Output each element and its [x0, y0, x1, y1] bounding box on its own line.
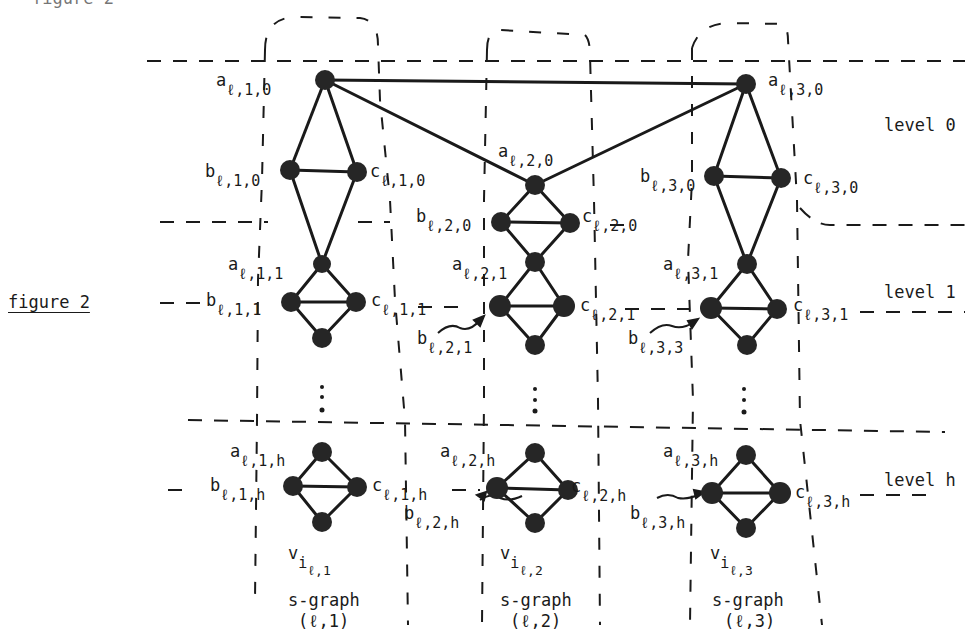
- label-b-l-3-0: bℓ,3,0: [640, 168, 695, 185]
- node-a-l-2-1: [525, 252, 545, 272]
- label-c-l-3-h: cℓ,3,h: [795, 484, 850, 501]
- sgraph-3-name: s-graph: [712, 592, 784, 609]
- label-a-l-3-h: aℓ,3,h: [663, 443, 718, 460]
- node-b-l-1-1: [281, 292, 301, 312]
- sgraph-3-index: (ℓ,3): [724, 613, 775, 630]
- label-c-l-1-h: cℓ,1,h: [372, 477, 427, 494]
- node-b-l-3-0: [704, 166, 724, 186]
- node-a-l-3-h: [736, 445, 756, 465]
- label-b-l-2-0: bℓ,2,0: [416, 208, 471, 225]
- label-a-l-3-0: aℓ,3,0: [768, 72, 823, 89]
- label-c-l-3-1: cℓ,3,1: [793, 297, 848, 314]
- node-a-l-2-h: [525, 443, 545, 463]
- top-cut-text: figure 2: [32, 0, 114, 7]
- label-b-l-2-1: bℓ,2,1: [417, 330, 472, 347]
- label-a-l-3-1: aℓ,3,1: [663, 256, 718, 273]
- ellipsis-dots: [320, 385, 747, 415]
- label-c-l-1-0: cℓ,1,0: [370, 163, 425, 180]
- sgraph-1-index: (ℓ,1): [298, 613, 349, 630]
- label-a-l-2-1: aℓ,2,1: [452, 256, 507, 273]
- node-a-l-2-0: [525, 175, 545, 195]
- sgraph-2-name: s-graph: [500, 592, 572, 609]
- node-b-l-2-h: [486, 477, 508, 499]
- sgraph-3-vertex-label: viℓ,3: [710, 545, 753, 562]
- node-a-l-1-h: [312, 442, 332, 462]
- node-b-l-3-1: [700, 297, 722, 319]
- sgraph-2-vertex-label: viℓ,2: [500, 545, 543, 562]
- label-c-l-1-1: cℓ,1,1: [371, 292, 426, 309]
- node-b-l-1-0: [280, 160, 300, 180]
- sgraph-1-vertex-label: viℓ,1: [288, 545, 331, 562]
- label-a-l-2-h: aℓ,2,h: [440, 443, 495, 460]
- figure-caption: figure 2: [8, 294, 90, 311]
- label-c-l-2-h: cℓ,2,h: [571, 478, 626, 495]
- node-c-l-2-1: [553, 295, 575, 317]
- sgraph-2-index: (ℓ,2): [510, 613, 561, 630]
- node-c-l-1-h: [347, 477, 367, 497]
- node-a-l-1-1: [313, 255, 331, 273]
- label-b-l-3-3: bℓ,3,3: [628, 330, 683, 347]
- level-h-label: level h: [884, 472, 956, 489]
- level-1-label: level 1: [884, 284, 956, 301]
- node-c-l-3-1: [767, 299, 787, 319]
- label-b-l-1-0: bℓ,1,0: [205, 163, 260, 180]
- label-a-l-1-h: aℓ,1,h: [230, 443, 285, 460]
- node-c-l-3-0: [771, 168, 791, 188]
- sgraph-1-name: s-graph: [288, 592, 360, 609]
- node-c-l-3-h: [769, 482, 791, 504]
- node-c-l-1-0: [347, 162, 367, 182]
- label-b-l-3-h: bℓ,3,h: [630, 505, 685, 522]
- node-d-l-1-1: [312, 328, 332, 348]
- node-d-l-1-h: [312, 512, 332, 532]
- label-c-l-2-1: cℓ,2,1: [580, 297, 635, 314]
- node-d-l-2-h: [525, 513, 545, 533]
- label-a-l-2-0: aℓ,2,0: [498, 143, 553, 160]
- node-b-l-2-0: [491, 212, 511, 232]
- label-b-l-1-1: bℓ,1,1: [206, 292, 261, 309]
- node-a-l-1-0: [315, 70, 335, 90]
- label-a-l-1-1: aℓ,1,1: [228, 256, 283, 273]
- node-a-l-3-0: [736, 74, 756, 94]
- label-a-l-1-0: aℓ,1,0: [216, 72, 271, 89]
- node-c-l-2-0: [560, 213, 580, 233]
- node-d-l-3-h: [736, 518, 756, 538]
- node-b-l-1-h: [283, 476, 303, 496]
- label-c-l-2-0: cℓ,2,0: [582, 208, 637, 225]
- node-b-l-2-1: [489, 295, 511, 317]
- level-0-label: level 0: [884, 117, 956, 134]
- node-d-l-3-1: [737, 335, 757, 355]
- node-b-l-3-h: [701, 482, 723, 504]
- node-d-l-2-1: [525, 335, 545, 355]
- node-c-l-1-1: [346, 292, 366, 312]
- node-a-l-3-1: [737, 254, 757, 274]
- label-b-l-1-h: bℓ,1,h: [210, 477, 265, 494]
- label-c-l-3-0: cℓ,3,0: [803, 170, 858, 187]
- label-b-l-2-h: bℓ,2,h: [404, 505, 459, 522]
